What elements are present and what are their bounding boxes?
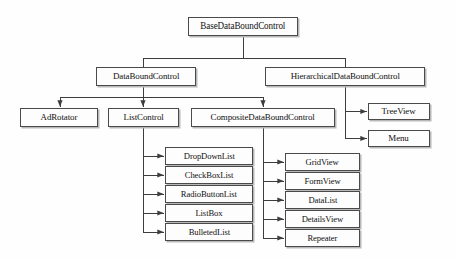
node-label: ListControl xyxy=(123,113,163,122)
class-hierarchy-diagram: BaseDataBoundControl DataBoundControl Hi… xyxy=(0,0,457,258)
node-repeater[interactable]: Repeater xyxy=(285,229,360,247)
node-formview[interactable]: FormView xyxy=(285,172,360,190)
node-gridview[interactable]: GridView xyxy=(285,153,360,171)
node-label: CompositeDataBoundControl xyxy=(211,113,315,122)
node-label: BaseDataBoundControl xyxy=(201,22,286,31)
node-label: BulletedList xyxy=(188,228,229,237)
node-checkboxlist[interactable]: CheckBoxList xyxy=(165,166,253,184)
node-listbox[interactable]: ListBox xyxy=(165,204,253,222)
node-label: DetailsView xyxy=(302,215,343,224)
node-listcontrol[interactable]: ListControl xyxy=(108,108,179,127)
node-basedataboundcontrol[interactable]: BaseDataBoundControl xyxy=(188,17,298,36)
node-treeview[interactable]: TreeView xyxy=(368,103,430,120)
node-detailsview[interactable]: DetailsView xyxy=(285,210,360,228)
node-compositedataboundcontrol[interactable]: CompositeDataBoundControl xyxy=(191,108,335,127)
node-label: HierarchicalDataBoundControl xyxy=(290,72,399,81)
node-label: Menu xyxy=(389,134,409,143)
node-datalist[interactable]: DataList xyxy=(285,191,360,209)
node-label: ListBox xyxy=(195,209,222,218)
node-label: CheckBoxList xyxy=(185,171,234,180)
node-label: DataBoundControl xyxy=(113,72,179,81)
node-label: FormView xyxy=(304,177,340,186)
node-label: DataList xyxy=(308,196,337,205)
node-label: DropDownList xyxy=(184,152,235,161)
node-dropdownlist[interactable]: DropDownList xyxy=(165,147,253,165)
node-label: GridView xyxy=(306,158,339,167)
node-adrotator[interactable]: AdRotator xyxy=(20,108,98,127)
node-label: AdRotator xyxy=(41,113,78,122)
node-label: TreeView xyxy=(382,107,416,116)
node-label: Repeater xyxy=(308,234,338,243)
node-hierarchicaldataboundcontrol[interactable]: HierarchicalDataBoundControl xyxy=(265,67,425,86)
node-menu[interactable]: Menu xyxy=(368,130,430,147)
node-databoundcontrol[interactable]: DataBoundControl xyxy=(96,67,196,86)
node-label: RadioButtonList xyxy=(181,190,237,199)
node-radiobuttonlist[interactable]: RadioButtonList xyxy=(165,185,253,203)
node-bulletedlist[interactable]: BulletedList xyxy=(165,223,253,241)
